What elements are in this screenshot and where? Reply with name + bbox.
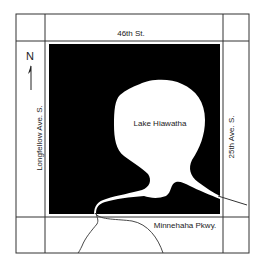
north-label: N	[26, 50, 34, 62]
creek-west-branch	[78, 213, 98, 253]
lake-hiawatha-map: N 46th St. Minnehaha Pkwy. Longfellow Av…	[0, 0, 263, 269]
creek-east-branch	[96, 214, 163, 253]
creek-east	[218, 196, 247, 205]
lake-label: Lake Hiawatha	[134, 119, 187, 128]
street-label-25th: 25th Ave. S.	[227, 116, 236, 159]
street-label-longfellow: Longfellow Ave. S.	[35, 105, 44, 171]
street-label-46th: 46th St.	[117, 29, 145, 38]
street-label-minnehaha: Minnehaha Pkwy.	[154, 221, 217, 230]
